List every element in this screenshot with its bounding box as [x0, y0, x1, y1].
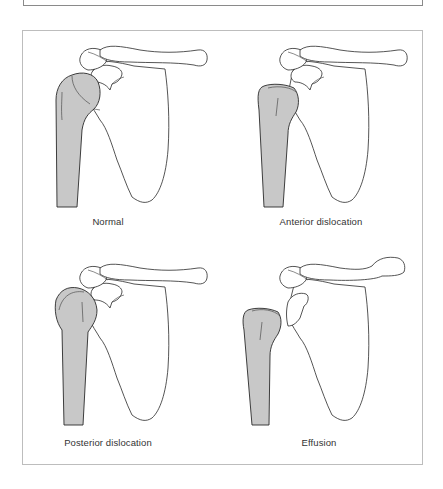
humerus-posterior	[55, 288, 97, 426]
humerus-anterior	[258, 84, 298, 207]
caption-normal: Normal	[18, 216, 198, 227]
shoulder-diagram	[0, 0, 443, 489]
panel-posterior	[55, 264, 207, 425]
panel-effusion	[243, 257, 405, 425]
caption-posterior: Posterior dislocation	[18, 437, 198, 448]
panel-normal	[56, 46, 207, 207]
scapula-clavicle-posterior	[80, 264, 207, 420]
panel-anterior	[258, 46, 407, 207]
caption-effusion: Effusion	[229, 437, 409, 448]
humerus-effusion	[243, 308, 281, 425]
scapula-clavicle-normal	[80, 46, 207, 202]
scapula-clavicle-anterior	[280, 46, 407, 202]
caption-anterior: Anterior dislocation	[231, 216, 411, 227]
